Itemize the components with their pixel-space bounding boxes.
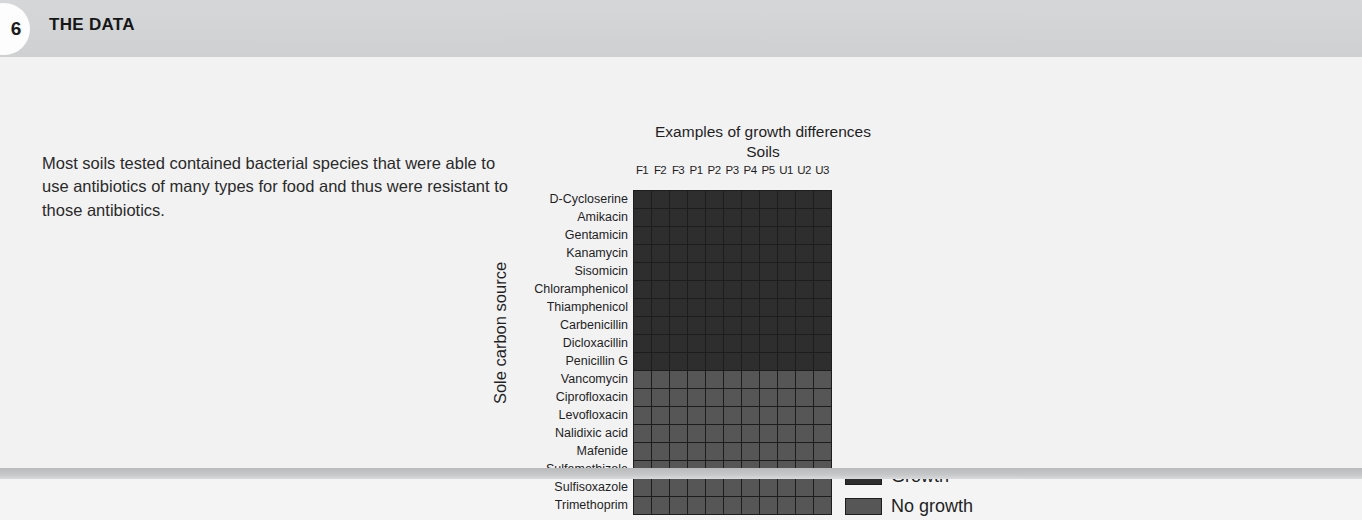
heatmap-cell (742, 227, 760, 245)
heatmap-cell (670, 299, 688, 317)
heatmap-cell (796, 389, 814, 407)
heatmap-cell (742, 443, 760, 461)
row-label: Gentamicin (495, 226, 628, 244)
section-header-band: 6 THE DATA (0, 0, 1362, 57)
heatmap-row (634, 425, 832, 443)
heatmap-cell (670, 209, 688, 227)
heatmap-cell (760, 389, 778, 407)
heatmap-cell (814, 353, 832, 371)
heatmap-cell (706, 299, 724, 317)
heatmap-cell (688, 389, 706, 407)
heatmap-cell (634, 479, 652, 497)
column-header: F2 (651, 164, 669, 176)
heatmap-cell (670, 497, 688, 515)
legend-label: No growth (891, 496, 973, 517)
heatmap-cell (670, 227, 688, 245)
heatmap-cell (742, 245, 760, 263)
figure-title: Examples of growth differences (598, 123, 928, 141)
heatmap-cell (688, 191, 706, 209)
bottom-divider (0, 468, 1362, 479)
heatmap-cell (688, 371, 706, 389)
heatmap-cell (724, 263, 742, 281)
heatmap-cell (706, 479, 724, 497)
heatmap-row (634, 299, 832, 317)
heatmap-cell (778, 245, 796, 263)
heatmap-cell (724, 497, 742, 515)
heatmap-cell (760, 227, 778, 245)
heatmap-cell (688, 227, 706, 245)
heatmap-cell (814, 479, 832, 497)
heatmap-cell (634, 389, 652, 407)
row-label: Vancomycin (495, 370, 628, 388)
heatmap-cell (760, 317, 778, 335)
heatmap-cell (652, 245, 670, 263)
heatmap-cell (706, 227, 724, 245)
heatmap-cell (670, 281, 688, 299)
heatmap-cell (814, 335, 832, 353)
heatmap-cell (634, 335, 652, 353)
row-label: D-Cycloserine (495, 190, 628, 208)
heatmap-cell (796, 407, 814, 425)
column-header: P5 (759, 164, 777, 176)
heatmap-cell (706, 389, 724, 407)
row-label: Dicloxacillin (495, 334, 628, 352)
heatmap-cell (652, 389, 670, 407)
heatmap-cell (742, 335, 760, 353)
column-header: P4 (741, 164, 759, 176)
heatmap-cell (652, 479, 670, 497)
heatmap-cell (742, 389, 760, 407)
heatmap-grid (633, 190, 832, 515)
heatmap-cell (760, 353, 778, 371)
heatmap-cell (724, 281, 742, 299)
column-header-row: F1F2F3P1P2P3P4P5U1U2U3 (633, 164, 831, 176)
description-paragraph: Most soils tested contained bacterial sp… (42, 152, 512, 223)
heatmap-cell (778, 227, 796, 245)
heatmap-cell (742, 497, 760, 515)
row-label: Chloramphenicol (495, 280, 628, 298)
heatmap-cell (814, 245, 832, 263)
heatmap-cell (670, 407, 688, 425)
heatmap-cell (652, 317, 670, 335)
heatmap-row (634, 281, 832, 299)
heatmap-cell (670, 263, 688, 281)
column-header: P1 (687, 164, 705, 176)
heatmap-cell (724, 335, 742, 353)
row-label: Carbenicillin (495, 316, 628, 334)
heatmap-cell (706, 335, 724, 353)
row-label: Levofloxacin (495, 406, 628, 424)
heatmap-cell (742, 407, 760, 425)
column-header: P2 (705, 164, 723, 176)
heatmap-cell (778, 317, 796, 335)
heatmap-cell (634, 227, 652, 245)
heatmap-cell (760, 263, 778, 281)
heatmap-cell (742, 209, 760, 227)
heatmap-cell (724, 443, 742, 461)
heatmap-cell (634, 317, 652, 335)
heatmap-cell (670, 353, 688, 371)
heatmap-cell (688, 335, 706, 353)
heatmap-cell (652, 281, 670, 299)
heatmap-cell (652, 335, 670, 353)
heatmap-cell (652, 407, 670, 425)
heatmap-cell (814, 299, 832, 317)
heatmap-row (634, 371, 832, 389)
heatmap-cell (814, 281, 832, 299)
heatmap-cell (634, 245, 652, 263)
heatmap-cell (724, 371, 742, 389)
heatmap-row (634, 317, 832, 335)
heatmap-cell (634, 371, 652, 389)
heatmap-cell (724, 191, 742, 209)
heatmap-cell (796, 299, 814, 317)
column-header: F3 (669, 164, 687, 176)
heatmap-row (634, 227, 832, 245)
heatmap-cell (634, 281, 652, 299)
heatmap-cell (778, 281, 796, 299)
heatmap-cell (652, 263, 670, 281)
heatmap-cell (796, 443, 814, 461)
heatmap-cell (634, 191, 652, 209)
column-header: P3 (723, 164, 741, 176)
heatmap-cell (760, 371, 778, 389)
heatmap-cell (688, 443, 706, 461)
heatmap-cell (706, 317, 724, 335)
row-label: Trimethoprim (495, 496, 628, 514)
